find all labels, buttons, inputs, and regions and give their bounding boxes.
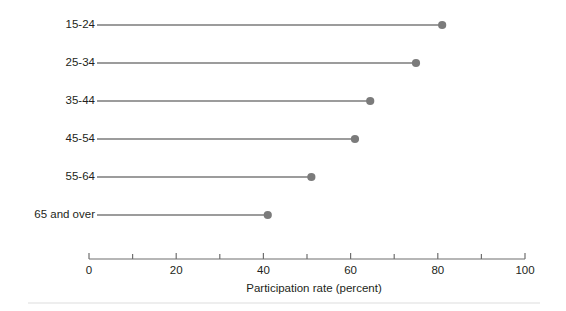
- data-marks-group: [97, 21, 446, 219]
- axis-tick-label: 20: [170, 264, 183, 276]
- axis-tick-label: 0: [86, 264, 92, 276]
- data-point-marker: [438, 21, 446, 29]
- category-label: 65 and over: [34, 208, 95, 220]
- axis-tick-label: 80: [431, 264, 444, 276]
- data-point-marker: [366, 97, 374, 105]
- axis-tick-label: 60: [344, 264, 357, 276]
- category-label: 35-44: [66, 94, 96, 106]
- x-axis-title: Participation rate (percent): [246, 282, 382, 294]
- axis-tick-labels-group: 020406080100: [86, 264, 535, 276]
- lollipop-chart: 15-24 25-34 35-44 45-54 55-64 65 and ove…: [0, 0, 566, 311]
- data-point-marker: [307, 173, 315, 181]
- axis-tick-label: 40: [257, 264, 270, 276]
- axis-tick-label: 100: [515, 264, 534, 276]
- data-point-marker: [412, 59, 420, 67]
- x-axis: 020406080100: [86, 253, 535, 276]
- chart-figure: 15-24 25-34 35-44 45-54 55-64 65 and ove…: [0, 0, 566, 311]
- data-point-marker: [351, 135, 359, 143]
- category-label: 55-64: [66, 170, 96, 182]
- data-point-marker: [264, 211, 272, 219]
- category-label: 45-54: [66, 132, 96, 144]
- category-label: 25-34: [66, 56, 96, 68]
- axis-ticks-group: [89, 253, 525, 259]
- category-label: 15-24: [66, 18, 96, 30]
